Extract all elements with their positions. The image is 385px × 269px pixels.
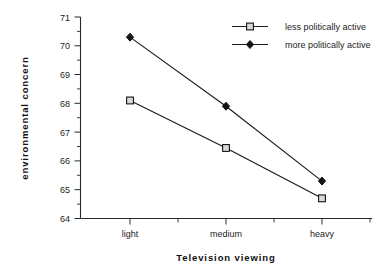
series-less-politically-active bbox=[127, 97, 326, 202]
legend-item-more[interactable]: more politically active bbox=[232, 40, 371, 50]
line-chart: 71 70 69 68 67 66 65 64 light medium hea… bbox=[0, 0, 385, 269]
y-tick-label: 71 bbox=[60, 13, 70, 23]
x-tick-label: medium bbox=[210, 229, 242, 239]
y-axis-tick-labels: 71 70 69 68 67 66 65 64 bbox=[60, 13, 70, 225]
y-tick-label: 66 bbox=[60, 156, 70, 166]
x-axis-title: Television viewing bbox=[176, 252, 275, 263]
chart-figure: 71 70 69 68 67 66 65 64 light medium hea… bbox=[0, 0, 385, 269]
series-more-politically-active bbox=[126, 33, 325, 185]
x-axis-tick-labels: light medium heavy bbox=[122, 229, 335, 239]
data-point-more-light bbox=[126, 33, 133, 41]
data-point-more-medium bbox=[222, 102, 229, 110]
x-tick-label: light bbox=[122, 229, 139, 239]
legend-label-more: more politically active bbox=[285, 40, 371, 50]
data-point-less-heavy bbox=[319, 195, 326, 202]
data-point-more-heavy bbox=[318, 177, 325, 185]
x-tick-label: heavy bbox=[310, 229, 335, 239]
y-axis-title: environmental concern bbox=[19, 56, 30, 179]
x-axis-ticks bbox=[130, 219, 370, 225]
legend-marker-filled-diamond-icon bbox=[246, 41, 253, 49]
y-tick-label: 68 bbox=[60, 99, 70, 109]
y-tick-label: 65 bbox=[60, 185, 70, 195]
y-tick-label: 67 bbox=[60, 128, 70, 138]
y-tick-label: 64 bbox=[60, 214, 70, 224]
data-point-less-light bbox=[127, 97, 134, 104]
legend-label-less: less politically active bbox=[285, 22, 366, 32]
y-tick-label: 70 bbox=[60, 41, 70, 51]
chart-legend: less politically active more politically… bbox=[232, 22, 371, 50]
data-point-less-medium bbox=[223, 145, 230, 152]
legend-marker-open-square-icon bbox=[247, 23, 254, 30]
y-tick-label: 69 bbox=[60, 70, 70, 80]
legend-item-less[interactable]: less politically active bbox=[232, 22, 366, 32]
